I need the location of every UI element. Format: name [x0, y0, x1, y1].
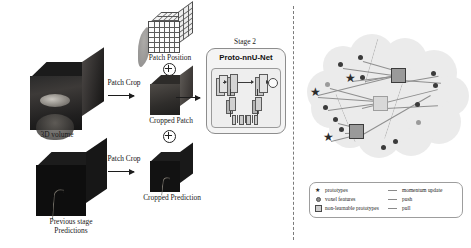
- patch-position-grid-icon: [148, 12, 192, 52]
- volume-cube-icon: [30, 62, 106, 130]
- patch-crop-label-top: Patch Crop: [107, 79, 141, 87]
- unet-output-node: [268, 78, 278, 88]
- patch-position-label: Patch Position: [128, 54, 212, 63]
- legend-star-icon: ★: [315, 187, 320, 193]
- prototype-star-marker: ★: [323, 132, 334, 144]
- unet-connection-b: [266, 82, 268, 83]
- nonlearnable-prototype-marker: [373, 96, 388, 111]
- panel-divider: [293, 6, 294, 240]
- stage-label: Stage 2: [215, 38, 275, 47]
- legend-label-pull: pull: [402, 205, 410, 211]
- cropped-prediction-label: Cropped Prediction: [120, 194, 224, 203]
- nonlearnable-prototype-marker: [349, 124, 364, 139]
- unet-connection-a: [223, 82, 226, 83]
- unet-down-path-2: [230, 111, 231, 117]
- prototype-star-marker: ★: [310, 87, 321, 99]
- unet-downsample-path: [230, 89, 231, 96]
- legend-label-voxel-features: voxel features: [325, 196, 355, 202]
- cropped-patch-cube-icon: [150, 75, 194, 115]
- patch-crop-arrow-bottom: [108, 171, 134, 172]
- legend-circle-icon: [316, 197, 321, 202]
- cropped-prediction-cube-icon: [150, 152, 194, 192]
- circled-plus-icon-bottom: [163, 130, 176, 143]
- legend-momentum-line-icon: [388, 190, 397, 191]
- legend-label-push: push: [402, 196, 412, 202]
- embedding-space-cloud: ★ ★ ★: [305, 30, 471, 160]
- legend-label-nonlearnable-prototypes: non-learnable prototypes: [325, 205, 379, 211]
- unet-upsample-path: [257, 89, 258, 96]
- unet-diagram: [211, 68, 281, 128]
- volume-label: 3D volume: [22, 131, 92, 140]
- patch-crop-label-bottom: Patch Crop: [107, 155, 141, 163]
- previous-stage-label: Previous stage Predictions: [28, 218, 114, 235]
- previous-prediction-cube-icon: [36, 152, 108, 216]
- legend-panel: ★ prototypes voxel features non-learnabl…: [309, 182, 463, 218]
- patch-crop-arrow-top: [108, 95, 134, 96]
- nonlearnable-prototype-marker: [391, 68, 406, 83]
- legend-pull-line-icon: [388, 208, 397, 209]
- model-label: Proto-nnU-Net: [211, 53, 281, 62]
- legend-label-momentum-update: momentum update: [402, 187, 442, 193]
- unet-skip-connection: [238, 82, 253, 83]
- cropped-patch-label: Cropped Patch: [127, 117, 215, 126]
- legend-square-icon: [315, 205, 322, 212]
- prototype-star-marker: ★: [345, 73, 356, 85]
- legend-push-line-icon: [388, 199, 397, 200]
- to-stage-arrow: [176, 97, 200, 98]
- figure-canvas: 3D volume Previous stage Predictions: [0, 0, 471, 248]
- unet-feature-strip: [232, 115, 258, 123]
- legend-label-prototypes: prototypes: [325, 187, 348, 193]
